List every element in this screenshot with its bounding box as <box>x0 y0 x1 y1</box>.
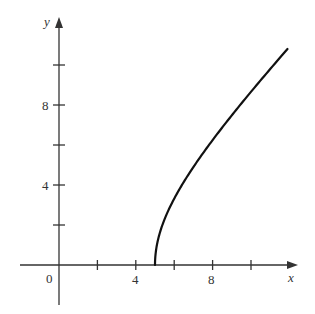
y-axis-arrow-icon <box>55 17 63 28</box>
x-tick-label-8: 8 <box>208 272 215 287</box>
x-tick-label-4: 4 <box>132 272 139 287</box>
x-axis-arrow-icon <box>287 261 298 269</box>
curve-line <box>155 49 287 265</box>
y-tick-label-4: 4 <box>42 178 49 193</box>
function-graph: y x 0 4 8 4 8 <box>0 0 315 314</box>
origin-label: 0 <box>46 271 53 286</box>
y-tick-label-8: 8 <box>42 98 49 113</box>
y-axis-label: y <box>42 14 50 29</box>
x-axis-label: x <box>287 270 294 285</box>
